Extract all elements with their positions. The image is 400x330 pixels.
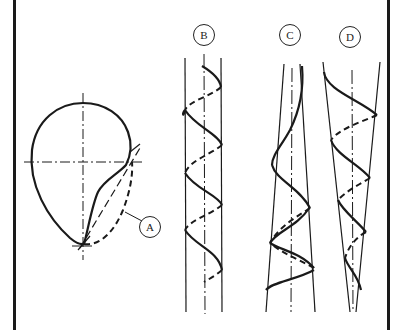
figure-b-cylinder-helix bbox=[183, 54, 222, 314]
label-b: B bbox=[193, 24, 215, 46]
label-a: A bbox=[139, 216, 161, 238]
label-c: C bbox=[279, 24, 301, 46]
label-d: D bbox=[339, 26, 361, 48]
figure-a-section bbox=[24, 93, 143, 260]
figure-d-inverted-cone-helix bbox=[323, 62, 380, 312]
figure-c-cone-helix bbox=[266, 64, 315, 312]
diagram-canvas bbox=[0, 0, 400, 330]
